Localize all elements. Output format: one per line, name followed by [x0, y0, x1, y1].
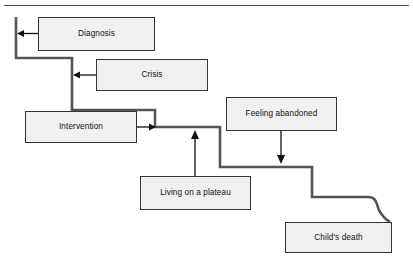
- node-intervention-label: Intervention: [59, 122, 103, 131]
- node-crisis[interactable]: Crisis: [96, 59, 208, 91]
- node-crisis-label: Crisis: [141, 70, 162, 79]
- node-diagnosis-label: Diagnosis: [78, 29, 115, 38]
- diagram-canvas: Diagnosis Crisis Intervention Feeling ab…: [0, 0, 413, 268]
- node-intervention[interactable]: Intervention: [25, 111, 137, 143]
- node-childs-death-label: Child's death: [314, 233, 362, 242]
- node-childs-death[interactable]: Child's death: [285, 222, 392, 253]
- staircase-curve-to-childs-death: [368, 197, 390, 222]
- node-living-on-a-plateau[interactable]: Living on a plateau: [140, 176, 251, 210]
- node-feeling-abandoned-label: Feeling abandoned: [246, 109, 318, 118]
- arrowhead-down-feeling-abandoned: [277, 155, 285, 164]
- node-diagnosis[interactable]: Diagnosis: [38, 17, 155, 51]
- node-living-on-a-plateau-label: Living on a plateau: [160, 188, 231, 197]
- arrowhead-up-living-on-a-plateau: [191, 130, 199, 139]
- node-feeling-abandoned[interactable]: Feeling abandoned: [226, 97, 337, 131]
- arrowhead-left-diagnosis: [17, 30, 24, 37]
- arrowhead-left-crisis: [73, 72, 80, 79]
